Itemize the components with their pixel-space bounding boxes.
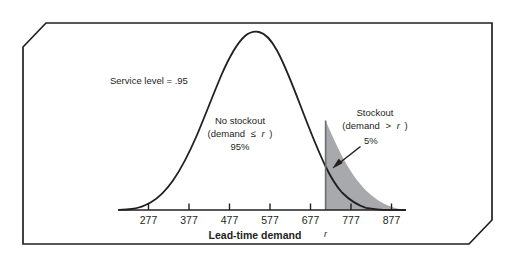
distribution-chart: 277 377 477 577 677 777 877 r Lead-time … [0,0,515,267]
stockout-percent: 5% [364,135,378,146]
stockout-cond-suffix: ) [404,120,407,131]
stockout-annotation: Stockout (demand > r ) 5% [342,107,407,146]
no-stockout-annotation: No stockout (demand ≤ r ) 95% [208,115,273,152]
no-stockout-cond-prefix: (demand [208,128,246,139]
stockout-cond-variable: r [397,120,401,131]
tick-label-377: 377 [180,214,198,226]
no-stockout-condition: (demand ≤ r ) [208,128,273,139]
tick-label-777: 777 [342,214,360,226]
no-stockout-cond-operator: ≤ [251,128,256,139]
stockout-condition: (demand > r ) [342,120,407,131]
stockout-cond-operator: > [385,120,391,131]
reorder-point-label: r [324,229,328,239]
figure-container: 277 377 477 577 677 777 877 r Lead-time … [0,0,515,267]
no-stockout-cond-suffix: ) [269,128,272,139]
no-stockout-cond-variable: r [262,128,266,139]
tick-label-677: 677 [302,214,320,226]
no-stockout-percent: 95% [230,141,250,152]
no-stockout-title: No stockout [215,115,266,126]
service-level-annotation: Service level = .95 [110,75,188,86]
stockout-title: Stockout [357,107,394,118]
tick-label-477: 477 [221,214,239,226]
tick-label-577: 577 [261,214,279,226]
x-axis-title: Lead-time demand [209,229,302,241]
tick-label-277: 277 [140,214,158,226]
tick-label-877: 877 [383,214,401,226]
stockout-cond-prefix: (demand [342,120,380,131]
